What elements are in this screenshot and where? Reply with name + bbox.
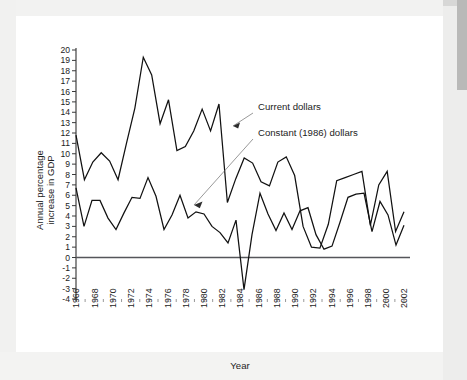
y-axis-tick-label: -2 [62, 273, 70, 283]
x-axis-tick-label: 1978 [181, 288, 191, 308]
x-axis-tick-label: 1998 [363, 288, 373, 308]
chart-content: 20191817161514131211109876543210-1-2-3-4… [60, 45, 410, 308]
y-axis-tick-label: 12 [60, 128, 70, 138]
y-axis-tick-label: 6 [65, 190, 70, 200]
annotation-current-dollars: Current dollars [233, 101, 321, 129]
x-axis-tick-label: 1974 [144, 288, 154, 308]
y-axis-tick-label: -1 [62, 263, 70, 273]
x-axis-tick-label: 1992 [308, 288, 318, 308]
y-axis-tick-label: 0 [65, 253, 70, 263]
x-axis-tick-label: 1984 [235, 288, 245, 308]
x-axis-tick-label: 2002 [399, 288, 409, 308]
x-axis-tick-label: 1990 [290, 288, 300, 308]
x-axis-tick-label: 1994 [327, 288, 337, 308]
y-axis-tick-label: 1 [65, 242, 70, 252]
y-axis-tick-label: 11 [61, 138, 70, 148]
y-axis-tick-label: 19 [60, 55, 70, 65]
y-axis-tick-label: 8 [65, 170, 70, 180]
y-axis-tick-label: 16 [60, 87, 70, 97]
x-axis-tick-label: 2000 [381, 288, 391, 308]
x-axis-tick-label: 1966 [71, 288, 81, 308]
y-axis-tick-label: 4 [65, 211, 70, 221]
x-axis-tick-label: 1976 [163, 288, 173, 308]
y-axis-tick-label: 15 [60, 97, 70, 107]
y-axis-title-line1: Annual percentage [34, 150, 45, 230]
series-line-constant-1986-dollars [76, 178, 404, 290]
constant-dollars-arrowhead [194, 202, 203, 209]
chart-svg: Annual percentage increase in GDP 201918… [0, 0, 467, 380]
x-axis-tick-label: 1972 [126, 288, 136, 308]
x-axis-tick-label: 1988 [272, 288, 282, 308]
y-axis-title-line2: increase in GDP [45, 155, 56, 224]
gdp-line-chart: Annual percentage increase in GDP 201918… [0, 0, 467, 380]
y-axis-tick-label: 2 [65, 232, 70, 242]
constant-dollars-leader [194, 139, 253, 205]
x-axis-tick-label: 1986 [254, 288, 264, 308]
y-axis-tick-label: 20 [60, 45, 70, 55]
y-axis-title: Annual percentage increase in GDP [34, 150, 56, 230]
constant-dollars-label: Constant (1986) dollars [258, 127, 358, 138]
y-axis-tick-label: 18 [60, 66, 70, 76]
y-axis-tick-label: 7 [65, 180, 70, 190]
current-dollars-label: Current dollars [258, 101, 321, 112]
y-axis-tick-label: 5 [65, 201, 70, 211]
y-axis-tick-label: -4 [62, 294, 70, 304]
x-axis-tick-label: 1996 [345, 288, 355, 308]
x-axis-tick-label: 1980 [199, 288, 209, 308]
x-axis-tick-label: 1970 [108, 288, 118, 308]
x-axis-tick-label: 1968 [90, 288, 100, 308]
y-axis-tick-label: -3 [62, 284, 70, 294]
y-axis-tick-label: 3 [65, 221, 70, 231]
y-axis-tick-label: 13 [60, 118, 70, 128]
scanned-page: Annual percentage increase in GDP 201918… [0, 0, 467, 380]
y-axis-tick-label: 10 [60, 149, 70, 159]
series-line-current-dollars [76, 57, 404, 248]
y-axis-tick-label: 17 [60, 76, 70, 86]
y-axis-tick-label: 14 [60, 107, 70, 117]
y-axis-tick-label: 9 [65, 159, 70, 169]
x-axis-title: Year [230, 360, 250, 371]
x-axis-tick-label: 1982 [217, 288, 227, 308]
current-dollars-leader [233, 113, 253, 126]
